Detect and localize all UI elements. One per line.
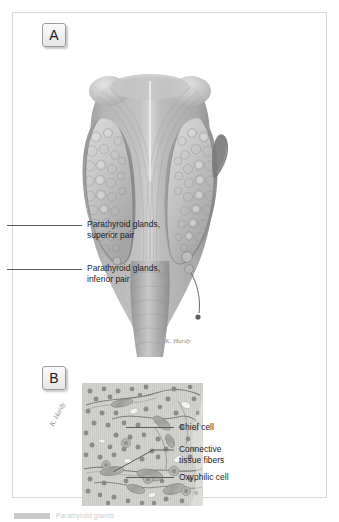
- leader-line-connective-tissue-fibers: [113, 445, 175, 473]
- leader-line-parathyroid-inferior: [7, 269, 82, 270]
- caption-text: Parathyroid glands: [56, 512, 114, 519]
- figure-root: Parathyroid glands, superior pair Parath…: [0, 0, 339, 522]
- panel-badge-b: B: [42, 366, 66, 390]
- leader-line-chief-cell: [126, 427, 174, 428]
- artist-signature-panel-a: K. Hardy: [165, 337, 191, 345]
- vascular-stalk: [212, 134, 228, 179]
- caption-strip: Parathyroid glands: [14, 512, 334, 520]
- callout-parathyroid-superior: Parathyroid glands, superior pair: [87, 219, 187, 240]
- callout-parathyroid-inferior: Parathyroid glands, inferior pair: [87, 263, 187, 284]
- callout-chief-cell: Chief cell: [179, 422, 289, 433]
- panel-badge-a: A: [42, 23, 66, 47]
- callout-oxyphilic-cell: Oxyphilic cell: [179, 472, 289, 483]
- caption-figure-number-swatch: [14, 513, 50, 519]
- leader-line-parathyroid-superior: [7, 225, 82, 226]
- figure-frame: Parathyroid glands, superior pair Parath…: [12, 12, 327, 498]
- leader-line-oxyphilic-cell: [126, 477, 174, 478]
- callout-connective-tissue-fibers: Connective tissue fibers: [179, 444, 289, 465]
- panel-a-illustration: [65, 61, 235, 361]
